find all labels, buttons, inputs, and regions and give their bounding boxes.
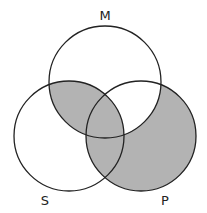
label-m: M	[99, 8, 110, 23]
label-p: P	[161, 193, 169, 208]
venn-svg: M S P	[0, 0, 207, 213]
label-s: S	[41, 193, 49, 208]
venn-diagram: M S P	[0, 0, 207, 213]
